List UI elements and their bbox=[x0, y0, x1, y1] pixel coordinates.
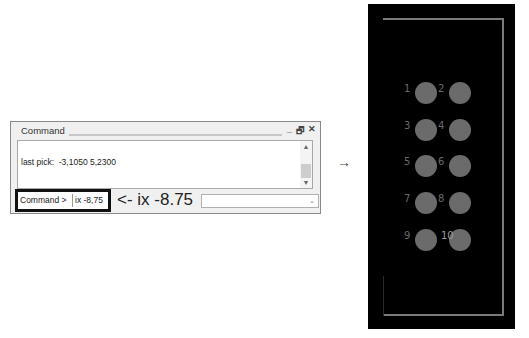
pad[interactable] bbox=[415, 119, 437, 141]
pad[interactable] bbox=[415, 229, 437, 251]
pad-label: 10 bbox=[441, 231, 454, 241]
chevron-down-icon[interactable]: ⌄ bbox=[309, 195, 315, 207]
pad[interactable] bbox=[449, 119, 471, 141]
title-grip[interactable] bbox=[69, 134, 282, 136]
close-icon[interactable]: ✕ bbox=[308, 124, 316, 140]
pad-label: 6 bbox=[438, 157, 444, 167]
pad[interactable] bbox=[415, 155, 437, 177]
window-buttons: _ 🗗 ✕ bbox=[287, 124, 316, 140]
minimize-icon[interactable]: _ bbox=[287, 124, 292, 140]
command-input[interactable]: ix -8,75 bbox=[75, 194, 107, 207]
command-history: last pick: -3,1050 5,2300 ix 8,75 last p… bbox=[17, 140, 313, 189]
board-outline-left-partial bbox=[383, 276, 384, 316]
command-input-row: Command > ix -8,75 <- ix -8.75 ⌄ bbox=[15, 189, 316, 211]
board-outline-bottom bbox=[383, 314, 504, 316]
scroll-up-icon[interactable]: ▲ bbox=[300, 141, 312, 152]
pad[interactable] bbox=[449, 192, 471, 214]
scroll-down-icon[interactable]: ▼ bbox=[300, 177, 312, 188]
pad[interactable] bbox=[449, 155, 471, 177]
restore-icon[interactable]: 🗗 bbox=[296, 124, 304, 140]
annotation-label: <- ix -8.75 bbox=[117, 189, 193, 211]
pad[interactable] bbox=[415, 192, 437, 214]
board-outline-top bbox=[383, 18, 504, 20]
history-scrollbar[interactable]: ▲ ▼ bbox=[300, 141, 312, 188]
command-history-lines: last pick: -3,1050 5,2300 ix 8,75 last p… bbox=[21, 140, 298, 189]
command-window-title: Command bbox=[21, 125, 65, 136]
pad[interactable] bbox=[449, 82, 471, 104]
pcb-canvas[interactable]: 12345678910 bbox=[368, 4, 515, 329]
pad-label: 4 bbox=[438, 121, 444, 131]
pad-label: 2 bbox=[438, 84, 444, 94]
pad[interactable] bbox=[415, 82, 437, 104]
pad-label: 8 bbox=[438, 194, 444, 204]
command-prompt-label: Command > bbox=[19, 194, 73, 207]
command-combo[interactable]: ⌄ bbox=[201, 194, 319, 208]
command-window: Command _ 🗗 ✕ last pick: -3,1050 5,2300 … bbox=[10, 121, 321, 214]
log-line: last pick: -3,1050 5,2300 bbox=[21, 157, 298, 167]
board-outline-right bbox=[502, 18, 504, 316]
pad-label: 7 bbox=[404, 194, 410, 204]
pad-label: 3 bbox=[404, 121, 410, 131]
pad-label: 9 bbox=[404, 231, 410, 241]
highlight-frame: Command > ix -8,75 bbox=[15, 189, 111, 212]
arrow-right-icon: → bbox=[337, 154, 351, 170]
pad-label: 5 bbox=[404, 157, 410, 167]
pad-label: 1 bbox=[404, 84, 410, 94]
scroll-thumb[interactable] bbox=[301, 164, 311, 178]
